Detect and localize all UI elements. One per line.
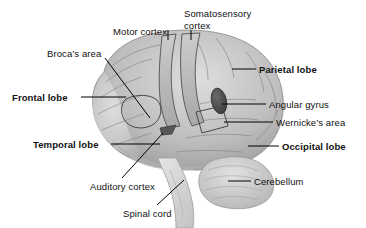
label-spinal-cord: Spinal cord <box>123 208 172 220</box>
label-cerebellum: Cerebellum <box>254 176 304 188</box>
label-temporal-lobe: Temporal lobe <box>33 139 99 151</box>
label-brocas-area: Broca’s area <box>47 48 101 60</box>
label-angular-gyrus: Angular gyrus <box>269 99 329 111</box>
label-somatosensory-cortex: Somatosensory cortex <box>184 8 260 31</box>
label-wernickes-area: Wernicke’s area <box>276 117 345 129</box>
label-motor-cortex: Motor cortex <box>113 26 167 38</box>
brain-diagram-figure: Motor cortex Somatosensory cortex Broca’… <box>0 0 366 228</box>
label-frontal-lobe: Frontal lobe <box>12 92 68 104</box>
label-occipital-lobe: Occipital lobe <box>282 141 346 153</box>
label-auditory-cortex: Auditory cortex <box>90 181 155 193</box>
cerebrum <box>93 30 284 170</box>
label-parietal-lobe: Parietal lobe <box>259 64 317 76</box>
brain-illustration <box>0 0 366 228</box>
